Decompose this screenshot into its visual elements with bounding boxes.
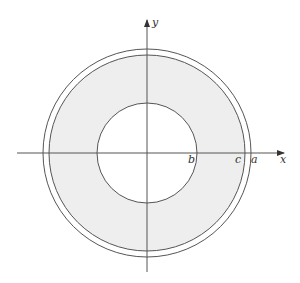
label-a: a [251,153,258,166]
label-b: b [188,153,195,166]
y-axis-label: y [151,16,159,29]
diagram-canvas: y x b c a [0,0,300,283]
annulus-diagram: y x b c a [0,0,300,283]
x-axis-label: x [280,153,287,166]
label-c: c [235,153,241,166]
